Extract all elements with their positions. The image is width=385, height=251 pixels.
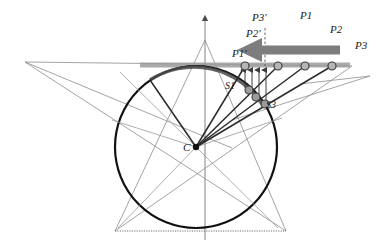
ray-to-left-tangent <box>150 80 196 147</box>
marker-p2 <box>301 62 309 70</box>
label-s3: S3 <box>266 100 276 110</box>
motion-arrow <box>237 38 340 62</box>
projection-rays <box>150 66 332 147</box>
marker-p1 <box>274 62 282 70</box>
lower-right-thin-line <box>300 76 370 84</box>
geometry-svg <box>0 0 385 251</box>
label-s1: S1 <box>225 81 235 91</box>
label-p2-prime: P2' <box>246 28 261 39</box>
marker-s1 <box>245 86 253 94</box>
label-p3-prime: P3' <box>252 12 267 23</box>
figure-canvas: P3' P2' P1' P1 P2 P3 S1 S3 C <box>0 0 385 251</box>
left-upper-diagonal <box>25 62 232 148</box>
marker-p3 <box>328 62 336 70</box>
label-p2: P2 <box>330 24 342 35</box>
label-center-c: C <box>183 142 190 153</box>
marker-p1prime <box>241 62 249 70</box>
label-p1-prime: P1' <box>232 48 247 59</box>
label-p1: P1 <box>300 10 312 21</box>
center-point <box>193 144 199 150</box>
marker-s2 <box>252 93 260 101</box>
ray-to-p2 <box>196 66 305 147</box>
label-p3: P3 <box>355 40 367 51</box>
